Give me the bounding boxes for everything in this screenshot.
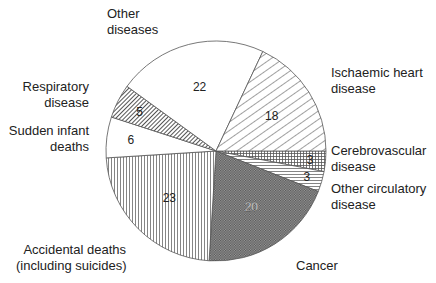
- slice-value: 23: [163, 191, 177, 205]
- pie-slices: [106, 41, 326, 261]
- slice-value: 6: [128, 133, 135, 147]
- label-respiratory: Respiratory disease: [12, 79, 89, 111]
- label-cancer: Cancer: [296, 258, 338, 274]
- label-accidental: Accidental deaths (including suicides): [16, 242, 126, 274]
- label-cerebrovascular: Cerebrovascular disease: [331, 143, 426, 175]
- label-ischaemic: Ischaemic heart disease: [331, 65, 423, 97]
- slice-value: 3: [304, 170, 311, 184]
- slice-value: 18: [265, 109, 279, 123]
- slice-value: 22: [193, 80, 207, 94]
- slice-value: 5: [136, 105, 143, 119]
- slice-value: 3: [307, 153, 314, 167]
- label-sudden-infant: Sudden infant deaths: [4, 123, 89, 155]
- slice-value: 20: [245, 200, 259, 214]
- label-other-diseases: Other diseases: [107, 6, 158, 38]
- label-other-circulatory: Other circulatory disease: [331, 181, 426, 213]
